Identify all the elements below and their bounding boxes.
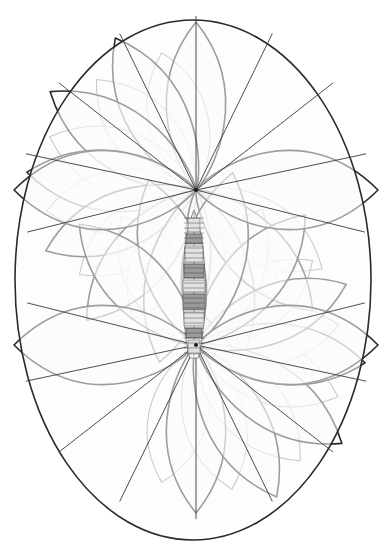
radiation-pattern-diagram bbox=[0, 0, 387, 555]
deck-section-aft-superstructure bbox=[184, 312, 204, 326]
deck-section-forecastle bbox=[188, 218, 200, 232]
deck-section-quarterdeck bbox=[188, 340, 200, 354]
deck-section-bridge bbox=[184, 264, 204, 278]
deck-section-forward-turret bbox=[186, 234, 202, 244]
deck-section-forward-superstructure bbox=[185, 246, 203, 262]
figure-root bbox=[0, 0, 387, 555]
feed-node-upper-node bbox=[194, 188, 198, 192]
ship-deck-sections bbox=[183, 218, 205, 354]
feed-node-lower-node bbox=[194, 343, 198, 347]
deck-section-mast-platform bbox=[183, 280, 205, 292]
deck-section-amidships bbox=[183, 294, 205, 310]
